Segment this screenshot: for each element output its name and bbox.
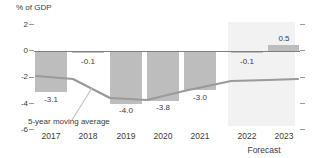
x-tick-label-2018: 2018 <box>68 131 108 141</box>
x-tick-label-2017: 2017 <box>31 131 71 141</box>
bar-label-2021: -3.0 <box>180 93 220 102</box>
bar-label-2017: -3.1 <box>31 95 71 104</box>
chart-container: % of GDP 2 0 -2 -4 -6 -3.1 -0.1 -4.0 -3.… <box>0 0 324 158</box>
bar-label-2018: -0.1 <box>68 57 108 66</box>
x-tick-label-2022: 2022 <box>227 131 267 141</box>
bar-label-2023: 0.5 <box>264 34 304 43</box>
forecast-caption: Forecast <box>226 145 302 155</box>
moving-average-annotation: 5-year moving average <box>28 117 110 126</box>
bar-label-2019: -4.0 <box>106 106 146 115</box>
x-tick-label-2020: 2020 <box>143 131 183 141</box>
bar-label-2020: -3.8 <box>143 103 183 112</box>
x-tick-label-2021: 2021 <box>180 131 220 141</box>
x-tick-label-2023: 2023 <box>264 131 304 141</box>
x-tick-label-2019: 2019 <box>106 131 146 141</box>
bar-label-2022: -0.1 <box>227 57 267 66</box>
